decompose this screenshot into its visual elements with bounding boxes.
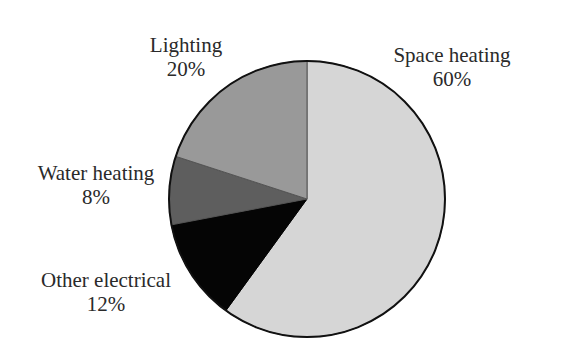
slice-label-other-electrical: Other electrical12%	[41, 268, 171, 316]
pie-slices	[169, 61, 445, 337]
slice-label-water-heating: Water heating8%	[38, 161, 155, 209]
pie-chart: Space heating60%Other electrical12%Water…	[0, 0, 563, 359]
slice-label-space-heating: Space heating60%	[393, 43, 511, 91]
slice-label-lighting: Lighting20%	[150, 33, 223, 81]
